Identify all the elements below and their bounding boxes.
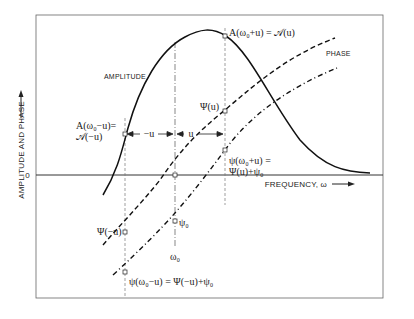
x-axis-arrow-icon — [332, 182, 355, 187]
psi-plus-annotation-line2: Ψ(u)+ψ₀ — [229, 166, 264, 178]
phase-label: PHASE — [326, 50, 351, 57]
marker-psi-minus — [123, 270, 127, 274]
x-axis-label: FREQUENCY, ω — [265, 180, 327, 189]
amplitude-phase-diagram: 0 AMPLITUDE AND PHASE FREQUENCY, ω — [0, 0, 414, 319]
marker-amp-plus — [223, 34, 227, 38]
plot-frame — [36, 15, 383, 298]
minus-u-label: −u — [144, 128, 155, 139]
marker-origin — [173, 173, 177, 177]
marker-psi-u — [223, 109, 227, 113]
psi-u-annotation: Ψ(u) — [200, 101, 219, 113]
plus-u-label: u — [189, 128, 194, 139]
amp-minus-annotation-line2: 𝒜(−u) — [76, 131, 102, 143]
amplitude-label: AMPLITUDE — [104, 73, 146, 80]
psi0-annotation: ψ₀ — [179, 217, 189, 228]
phase-curve-psi-upper — [103, 38, 335, 245]
psi-minus-annotation: ψ(ω₀−u) = Ψ(−u)+ψ₀ — [129, 276, 214, 288]
zero-label: 0 — [25, 171, 30, 180]
psi-minus-u-annotation: Ψ(−u) — [97, 226, 122, 238]
marker-psi0 — [173, 219, 177, 223]
omega0-annotation: ω₀ — [170, 251, 181, 262]
marker-psi-minus-u — [123, 230, 127, 234]
amp-plus-annotation: A(ω₀+u) = 𝒜(u) — [229, 27, 295, 39]
marker-psi-plus — [223, 148, 227, 152]
